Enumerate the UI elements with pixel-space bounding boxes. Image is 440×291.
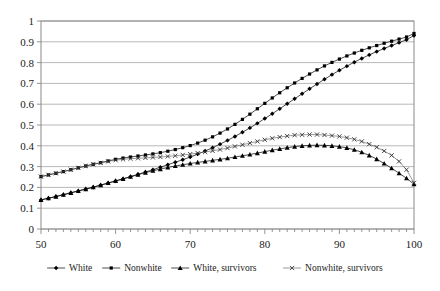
legend-label: White	[69, 263, 92, 273]
chart-canvas: 00.10.20.30.40.50.60.70.80.91 5060708090…	[0, 0, 440, 291]
data-point-square	[293, 81, 296, 84]
data-point-square	[248, 113, 251, 116]
x-tick-label: 100	[406, 238, 423, 250]
data-point-square	[278, 91, 281, 94]
y-tick-label: 1	[29, 15, 35, 27]
data-point-square	[189, 144, 192, 147]
data-point-square	[315, 68, 318, 71]
y-tick-label: 0.8	[20, 57, 34, 69]
data-point-square	[360, 49, 363, 52]
x-tick-label: 70	[185, 238, 197, 250]
data-point-square	[233, 123, 236, 126]
data-point-square	[144, 153, 147, 156]
data-point-square	[412, 32, 415, 35]
y-tick-label: 0.2	[20, 181, 34, 193]
data-point-square	[308, 72, 311, 75]
data-point-square	[405, 35, 408, 38]
data-point-square	[397, 37, 400, 40]
data-point-square	[271, 96, 274, 99]
data-point-square	[159, 151, 162, 154]
data-point-square	[338, 57, 341, 60]
data-point-square	[286, 86, 289, 89]
x-tick-label: 90	[334, 238, 346, 250]
data-point-square	[345, 54, 348, 57]
data-point-square	[390, 40, 393, 43]
data-point-square	[256, 107, 259, 110]
y-tick-label: 0.1	[20, 202, 34, 214]
x-tick-label: 60	[110, 238, 122, 250]
data-point-square	[218, 132, 221, 135]
data-point-square	[330, 61, 333, 64]
data-point-square	[301, 77, 304, 80]
data-point-square	[263, 102, 266, 105]
data-point-square	[323, 64, 326, 67]
data-point-square	[383, 42, 386, 45]
data-point-square	[241, 118, 244, 121]
legend-label: Nonwhite, survivors	[305, 263, 383, 273]
line-chart: 00.10.20.30.40.50.60.70.80.91 5060708090…	[0, 0, 440, 291]
y-tick-label: 0.6	[20, 98, 34, 110]
y-tick-label: 0.7	[20, 77, 34, 89]
data-point-square	[226, 127, 229, 130]
data-point-square	[353, 51, 356, 54]
y-tick-label: 0.9	[20, 36, 34, 48]
data-point-square	[181, 146, 184, 149]
legend-label: Nonwhite	[124, 263, 161, 273]
data-point-square	[375, 44, 378, 47]
y-tick-label: 0.4	[20, 140, 34, 152]
data-point-square	[151, 152, 154, 155]
x-tick-label: 50	[36, 238, 48, 250]
data-point-square	[204, 139, 207, 142]
data-point-square	[110, 266, 113, 269]
data-point-square	[166, 150, 169, 153]
data-point-square	[196, 141, 199, 144]
legend-label: White, survivors	[193, 263, 257, 273]
y-tick-label: 0	[29, 223, 35, 235]
x-tick-label: 80	[259, 238, 271, 250]
y-tick-label: 0.5	[20, 119, 34, 131]
data-point-square	[211, 135, 214, 138]
data-point-square	[174, 148, 177, 151]
y-tick-label: 0.3	[20, 161, 34, 173]
data-point-square	[368, 46, 371, 49]
